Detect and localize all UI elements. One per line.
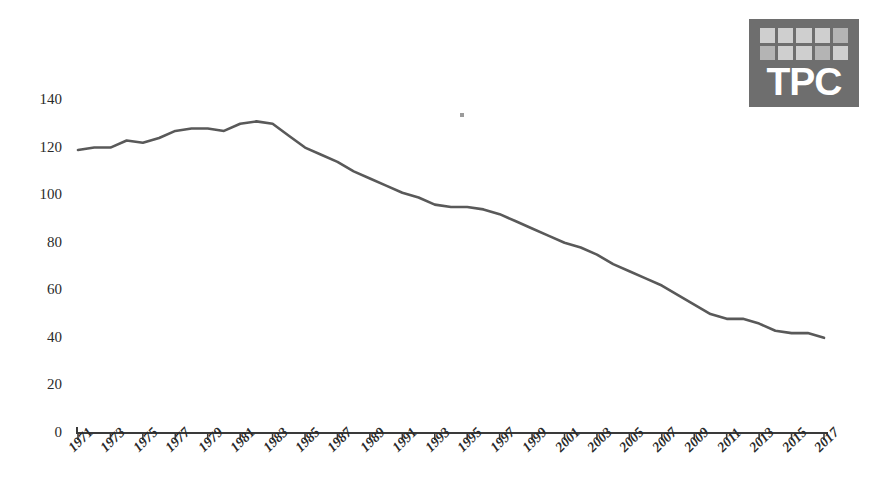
data-series-line bbox=[78, 121, 824, 337]
line-chart: 020406080100120140 197119731975197719791… bbox=[0, 0, 879, 501]
y-axis-tick-label: 80 bbox=[22, 235, 62, 250]
y-axis-tick-label: 140 bbox=[22, 92, 62, 107]
y-axis-tick-label: 120 bbox=[22, 140, 62, 155]
y-axis-tick-label: 60 bbox=[22, 282, 62, 297]
scan-speck bbox=[460, 113, 464, 117]
y-axis-tick-label: 20 bbox=[22, 377, 62, 392]
y-axis-tick-label: 0 bbox=[22, 425, 62, 440]
chart-page: TPC 020406080100120140 19711973197519771… bbox=[0, 0, 879, 501]
y-axis-tick-label: 40 bbox=[22, 330, 62, 345]
y-axis-tick-label: 100 bbox=[22, 187, 62, 202]
